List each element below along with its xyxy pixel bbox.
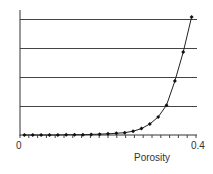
data-line xyxy=(24,17,191,135)
data-point xyxy=(89,132,93,136)
data-point xyxy=(98,132,102,136)
data-point xyxy=(47,133,51,137)
data-point xyxy=(56,133,60,137)
data-markers xyxy=(22,15,193,137)
data-point xyxy=(173,79,177,83)
x-tick-label-min: 0 xyxy=(16,140,22,151)
data-point xyxy=(31,133,35,137)
data-point xyxy=(39,133,43,137)
x-axis-title: Porosity xyxy=(134,152,170,163)
data-point xyxy=(190,15,194,19)
porosity-chart xyxy=(0,0,213,174)
data-point xyxy=(139,127,143,131)
data-point xyxy=(22,133,26,137)
data-point xyxy=(123,131,127,135)
x-tick-label-max: 0.4 xyxy=(191,140,205,151)
data-point xyxy=(131,129,135,133)
data-point xyxy=(181,50,185,54)
data-point xyxy=(64,133,68,137)
